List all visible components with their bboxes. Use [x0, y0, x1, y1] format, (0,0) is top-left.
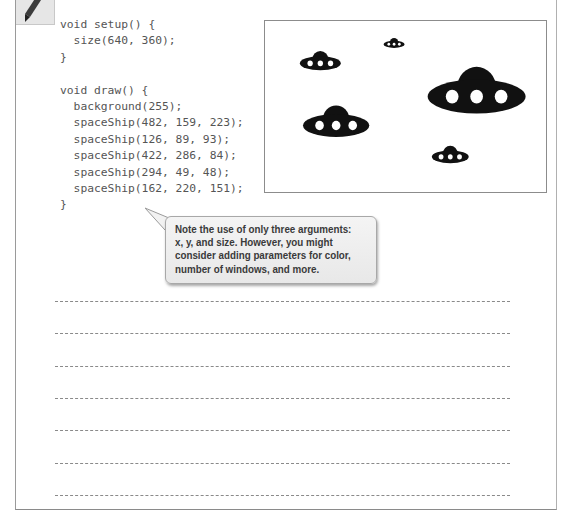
callout-text: Note the use of only three arguments: x,…: [175, 223, 371, 276]
note-line[interactable]: [55, 366, 510, 367]
callout-line: consider adding parameters for color,: [175, 249, 371, 262]
ship-window: [439, 154, 444, 159]
ship-window: [387, 43, 390, 46]
note-line[interactable]: [55, 333, 510, 334]
ship-window: [315, 121, 324, 130]
spaceship: [303, 105, 369, 137]
code-line: spaceShip(126, 89, 93);: [60, 132, 244, 148]
code-line: spaceShip(162, 220, 151);: [60, 181, 244, 197]
code-listing: void setup() { size(640, 360);}void draw…: [60, 17, 244, 214]
note-line[interactable]: [55, 301, 510, 302]
note-line[interactable]: [55, 430, 510, 431]
ship-window: [495, 90, 508, 104]
exercise-marker: [16, 0, 55, 25]
ship-window: [318, 60, 323, 66]
ship-window: [328, 60, 333, 66]
ship-window: [307, 60, 312, 66]
spaceship: [300, 51, 341, 70]
ship-window: [348, 121, 357, 130]
note-line[interactable]: [55, 463, 510, 464]
ship-window: [446, 90, 459, 104]
callout-line: number of windows, and more.: [175, 263, 371, 276]
callout-line: Note the use of only three arguments:: [175, 223, 371, 236]
code-line: void draw() {: [60, 83, 244, 99]
spaceship: [432, 146, 469, 164]
code-line: background(255);: [60, 99, 244, 115]
ship-window: [393, 43, 396, 46]
note-line[interactable]: [55, 495, 510, 496]
callout-line: x, y, and size. However, you might: [175, 236, 371, 249]
ship-window: [457, 154, 462, 159]
spaceship: [428, 67, 526, 114]
sketch-output-canvas: [264, 20, 547, 193]
spaceships-drawing: [265, 21, 546, 192]
note-line[interactable]: [55, 398, 510, 399]
ship-window: [448, 154, 453, 159]
code-line: [60, 66, 244, 82]
callout-note: Note the use of only three arguments: x,…: [165, 216, 377, 284]
pencil-icon: [22, 0, 44, 24]
code-line: spaceShip(294, 49, 48);: [60, 165, 244, 181]
code-line: size(640, 360);: [60, 33, 244, 49]
ship-window: [470, 90, 483, 104]
code-line: }: [60, 50, 244, 66]
code-line: spaceShip(482, 159, 223);: [60, 115, 244, 131]
ship-window: [398, 43, 401, 46]
spaceship: [384, 38, 405, 48]
code-line: void setup() {: [60, 17, 244, 33]
ship-window: [332, 121, 341, 130]
code-line: spaceShip(422, 286, 84);: [60, 148, 244, 164]
